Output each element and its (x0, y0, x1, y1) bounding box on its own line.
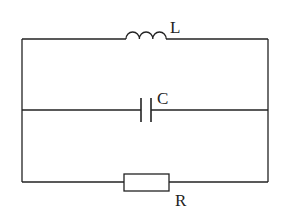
resistor-icon (124, 174, 169, 191)
circuit-diagram: L C R (0, 0, 288, 218)
inductor-coil-icon (126, 32, 166, 39)
inductor-label: L (170, 19, 180, 36)
circuit-wires (0, 0, 288, 218)
resistor-label: R (175, 192, 186, 209)
capacitor-label: C (157, 90, 168, 107)
